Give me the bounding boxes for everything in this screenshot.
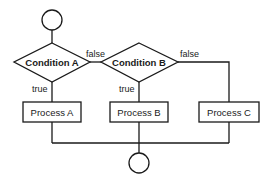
condition-b-false-line [178, 62, 229, 102]
flowchart: Condition A Condition B false true false… [0, 0, 268, 186]
decision-label: Condition A [25, 57, 79, 68]
end-terminal [129, 153, 149, 173]
process-label: Process A [31, 107, 74, 118]
edge-label-a-false: false [86, 49, 105, 59]
process-label: Process B [117, 107, 160, 118]
process-b: Process B [110, 102, 168, 122]
process-a: Process A [23, 102, 81, 122]
process-c: Process C [199, 102, 259, 122]
edge-label-b-true: true [119, 84, 135, 94]
process-label: Process C [207, 107, 251, 118]
decision-condition-a: Condition A [14, 43, 90, 82]
edge-label-b-false: false [180, 49, 199, 59]
edge-label-a-true: true [32, 84, 48, 94]
decision-label: Condition B [112, 57, 166, 68]
start-terminal [42, 10, 62, 30]
decision-condition-b: Condition B [101, 43, 178, 82]
